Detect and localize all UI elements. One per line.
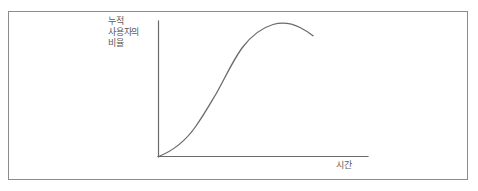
y-axis-label-line-3: 비율	[108, 38, 156, 49]
y-axis-label-line-1: 누적	[108, 16, 156, 27]
y-axis-label-line-2: 사용자의	[108, 27, 156, 38]
y-axis-label: 누적 사용자의 비율	[108, 16, 156, 49]
screenshot-root: 누적 사용자의 비율 시간	[0, 0, 478, 191]
x-axis-label: 시간	[336, 159, 352, 171]
figure-frame	[8, 11, 468, 180]
